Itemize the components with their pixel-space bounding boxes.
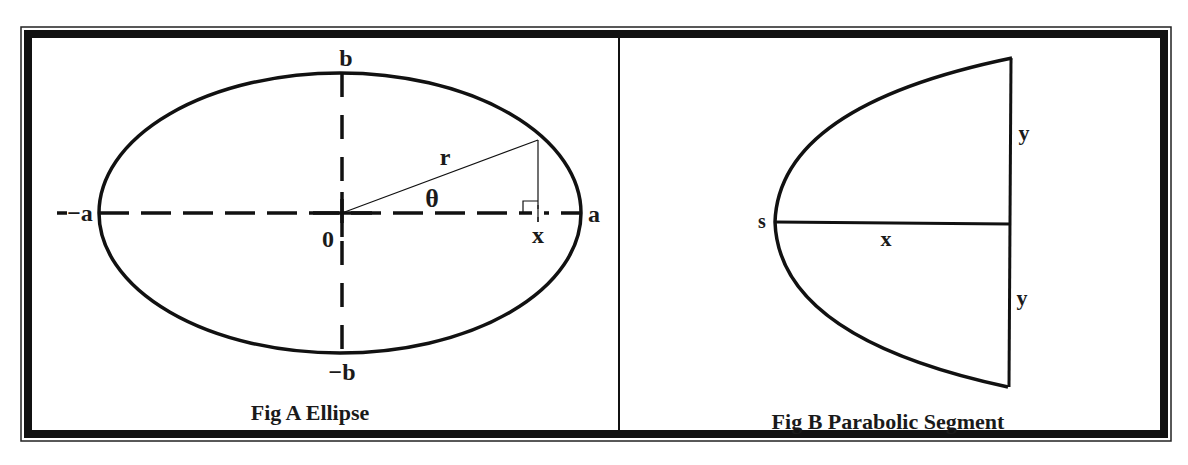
axis-line-x: [775, 222, 1010, 224]
label-minus-b: −b: [328, 359, 355, 385]
panel-fig-b-parabolic-segment: s x y y Fig B Parabolic Segment: [758, 58, 1029, 434]
label-axis-x: x: [881, 226, 892, 251]
figure-canvas: b −b −a a 0 r θ x Fig A Ellipse s x y y …: [0, 0, 1188, 465]
label-origin-zero: 0: [322, 226, 334, 252]
label-y-lower: y: [1017, 285, 1028, 310]
label-x-foot: x: [532, 222, 544, 248]
caption-fig-a: Fig A Ellipse: [251, 400, 370, 425]
label-b-top: b: [339, 45, 352, 71]
label-theta: θ: [425, 184, 439, 213]
label-minus-a: −a: [67, 200, 93, 226]
label-a-right: a: [588, 201, 600, 227]
label-vertex-s: s: [758, 210, 766, 232]
label-y-upper: y: [1019, 120, 1030, 145]
label-radius-r: r: [440, 144, 451, 170]
panel-fig-a-ellipse: b −b −a a 0 r θ x Fig A Ellipse: [57, 45, 600, 425]
caption-fig-b: Fig B Parabolic Segment: [772, 409, 1005, 434]
figure-frame: [21, 27, 1171, 441]
